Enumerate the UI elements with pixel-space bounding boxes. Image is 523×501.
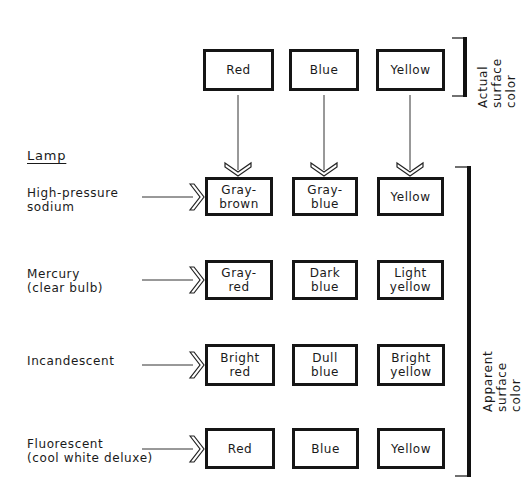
apparent-color-box: Bright yellow	[377, 344, 445, 386]
lamp-label-high-pressure-sodium: High-pressure sodium	[27, 186, 119, 214]
apparent-color-box: Yellow	[377, 177, 444, 216]
lamp-heading: Lamp	[27, 148, 66, 163]
apparent-color-box: Gray- brown	[205, 177, 273, 216]
lamp-label-mercury: Mercury (clear bulb)	[27, 267, 103, 295]
lamp-color-diagram: Red Blue Yellow Actual surface color Lam…	[0, 0, 523, 501]
actual-surface-color-label: Actual surface color	[476, 58, 518, 108]
apparent-color-box: Dull blue	[292, 344, 358, 386]
apparent-color-box: Bright red	[205, 344, 275, 386]
apparent-color-box: Dark blue	[292, 260, 358, 300]
apparent-color-box: Gray- red	[205, 260, 273, 300]
apparent-surface-color-label: Apparent surface color	[481, 350, 523, 412]
actual-color-red: Red	[203, 49, 274, 91]
lamp-label-incandescent: Incandescent	[27, 354, 114, 368]
apparent-color-box: Yellow	[377, 428, 445, 469]
apparent-color-box: Red	[205, 428, 275, 469]
actual-color-blue: Blue	[289, 49, 359, 91]
apparent-color-box: Gray- blue	[292, 177, 358, 216]
lamp-label-fluorescent: Fluorescent (cool white deluxe)	[27, 437, 153, 465]
apparent-color-box: Blue	[292, 428, 359, 469]
actual-color-yellow: Yellow	[376, 49, 445, 91]
apparent-color-box: Light yellow	[377, 260, 444, 300]
